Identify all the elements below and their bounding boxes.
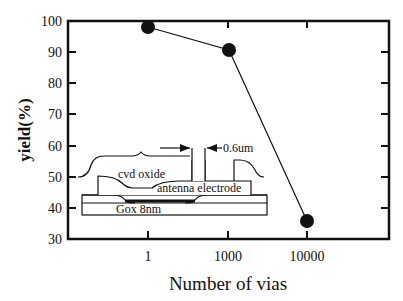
data-point [300, 214, 314, 228]
svg-text:1000: 1000 [214, 249, 242, 264]
data-point [141, 20, 155, 34]
svg-text:50: 50 [48, 170, 62, 185]
svg-text:70: 70 [48, 107, 62, 122]
svg-text:cvd oxide: cvd oxide [118, 167, 165, 181]
svg-text:80: 80 [48, 76, 62, 91]
y-axis-title: yield(%) [15, 98, 34, 161]
svg-text:antenna electrode: antenna electrode [157, 181, 241, 195]
svg-text:0.6um: 0.6um [223, 141, 254, 155]
svg-text:Gox 8nm: Gox 8nm [116, 202, 162, 216]
x-axis-title: Number of vias [169, 273, 287, 294]
svg-text:100: 100 [41, 14, 62, 29]
chart-svg: 100 90 80 70 60 50 40 30 1 1000 10000 Nu… [0, 0, 403, 301]
svg-text:90: 90 [48, 45, 62, 60]
y-tick-labels: 100 90 80 70 60 50 40 30 [41, 14, 62, 247]
svg-text:30: 30 [48, 232, 62, 247]
svg-text:40: 40 [48, 201, 62, 216]
data-point [222, 43, 236, 57]
svg-text:60: 60 [48, 139, 62, 154]
x-tick-labels: 1 1000 10000 [145, 249, 325, 264]
svg-text:10000: 10000 [290, 249, 325, 264]
svg-text:1: 1 [145, 249, 152, 264]
